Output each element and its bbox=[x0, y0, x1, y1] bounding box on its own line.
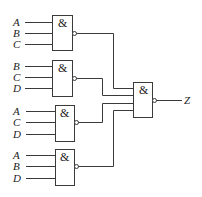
and-symbol: & bbox=[58, 16, 68, 30]
input-label: C bbox=[13, 38, 21, 50]
inversion-bubble-icon bbox=[153, 99, 157, 103]
nand-gate-final: & Z bbox=[134, 83, 192, 118]
logic-circuit-diagram: A B C & B C D & A C D & A B D bbox=[0, 0, 202, 197]
and-symbol: & bbox=[60, 150, 70, 164]
nand-gate-2: B C D & bbox=[12, 60, 77, 97]
wire-g3-to-g5 bbox=[79, 104, 134, 123]
inversion-bubble-icon bbox=[73, 77, 77, 81]
input-label: C bbox=[13, 116, 21, 128]
wire-g4-to-g5 bbox=[79, 111, 134, 167]
nand-gate-3: A C D & bbox=[12, 105, 79, 142]
output-label: Z bbox=[184, 94, 191, 106]
input-label: D bbox=[12, 128, 21, 140]
input-label: D bbox=[12, 82, 21, 94]
wire-g1-to-g5 bbox=[77, 34, 134, 89]
input-label: B bbox=[13, 160, 20, 172]
wire-g2-to-g5 bbox=[77, 79, 134, 96]
inversion-bubble-icon bbox=[75, 121, 79, 125]
inversion-bubble-icon bbox=[73, 32, 77, 36]
and-symbol: & bbox=[139, 83, 149, 97]
input-label: D bbox=[12, 172, 21, 184]
nand-gate-1: A B C & bbox=[12, 16, 77, 51]
and-symbol: & bbox=[58, 61, 68, 75]
and-symbol: & bbox=[60, 106, 70, 120]
inversion-bubble-icon bbox=[75, 165, 79, 169]
nand-gate-4: A B D & bbox=[12, 149, 79, 186]
